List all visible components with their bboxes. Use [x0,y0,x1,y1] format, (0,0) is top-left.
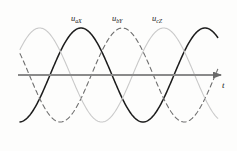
three-phase-waveform-figure: uaX ubY ucZ t [0,0,237,151]
axis-label-time: t [222,80,225,90]
wave-label-ucz: ucZ [152,13,162,24]
wave-label-ucz-subscript: cZ [156,18,162,24]
wave-label-uax: uaX [71,13,82,24]
wave-label-uby: ubY [112,13,122,24]
wave-label-uax-subscript: aX [75,18,81,24]
wave-label-uby-subscript: bY [116,18,122,24]
